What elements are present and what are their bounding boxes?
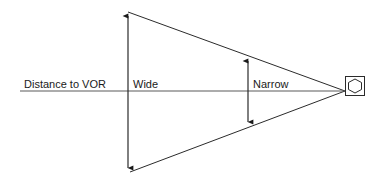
- vor-station-icon: [346, 77, 365, 96]
- vor-station-hexagon: [349, 79, 362, 93]
- label-wide: Wide: [133, 78, 158, 90]
- diagram-canvas: Distance to VOR Wide Narrow: [0, 0, 379, 185]
- label-narrow: Narrow: [253, 78, 289, 90]
- label-distance-to-vor: Distance to VOR: [24, 78, 106, 90]
- wedge-lower-edge: [130, 91, 345, 172]
- wedge-upper-edge: [128, 12, 345, 91]
- vor-course-width-diagram: Distance to VOR Wide Narrow: [0, 0, 379, 185]
